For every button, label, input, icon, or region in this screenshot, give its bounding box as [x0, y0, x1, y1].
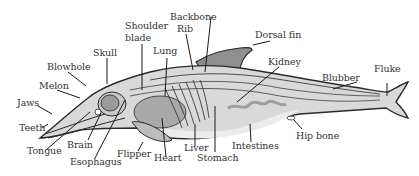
label-lung: Lung — [153, 46, 177, 56]
label-brain: Brain — [67, 140, 93, 150]
hip-bone-shape — [287, 116, 295, 120]
label-teeth: Teeth — [19, 123, 45, 133]
brain-shape — [101, 95, 119, 111]
label-shoulder-blade-line2: blade — [125, 33, 151, 43]
label-skull: Skull — [93, 48, 117, 58]
label-heart: Heart — [154, 153, 181, 163]
label-melon: Melon — [39, 81, 69, 91]
label-shoulder-blade-line1: Shoulder — [125, 21, 168, 31]
label-flipper: Flipper — [117, 149, 151, 159]
label-kidney: Kidney — [268, 57, 301, 67]
label-blubber: Blubber — [322, 73, 360, 83]
label-tongue: Tongue — [27, 146, 62, 156]
label-intestines: Intestines — [232, 141, 279, 151]
label-stomach: Stomach — [197, 153, 238, 163]
label-esophagus: Esophagus — [70, 157, 122, 167]
label-blowhole: Blowhole — [47, 62, 91, 72]
label-dorsal-fin: Dorsal fin — [255, 30, 301, 40]
dolphin-anatomy-diagram: Backbone Rib Shoulder blade Lung Skull B… — [0, 0, 419, 176]
label-rib: Rib — [177, 24, 193, 34]
label-backbone: Backbone — [170, 12, 216, 22]
label-hip-bone: Hip bone — [296, 131, 339, 141]
label-jaws: Jaws — [17, 98, 39, 108]
label-fluke: Fluke — [374, 64, 401, 74]
